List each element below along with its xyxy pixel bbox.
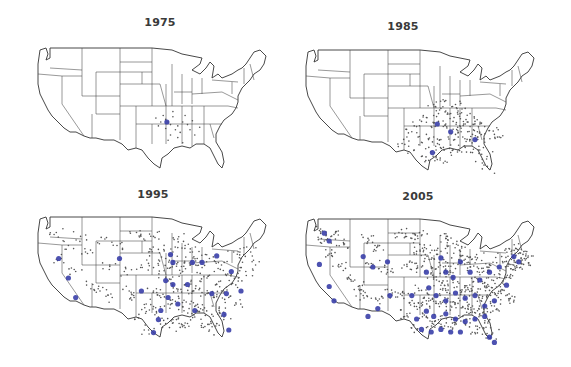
store-dot bbox=[191, 313, 193, 315]
store-dot bbox=[158, 273, 160, 275]
store-dot bbox=[228, 280, 230, 282]
store-dot bbox=[436, 101, 438, 103]
store-dot bbox=[510, 251, 512, 253]
supercenter-dot bbox=[209, 291, 214, 296]
store-dot bbox=[170, 124, 172, 126]
store-dot bbox=[116, 245, 118, 247]
store-dot bbox=[445, 248, 447, 250]
store-dot bbox=[373, 251, 375, 253]
store-dot bbox=[158, 231, 160, 233]
store-dot bbox=[216, 323, 218, 325]
store-dot bbox=[457, 149, 459, 151]
store-dot bbox=[182, 121, 184, 123]
store-dot bbox=[417, 308, 419, 310]
store-dot bbox=[464, 285, 466, 287]
store-dot bbox=[201, 323, 203, 325]
store-dot bbox=[504, 250, 506, 252]
store-dot bbox=[176, 319, 178, 321]
store-dot bbox=[178, 296, 180, 298]
store-dot bbox=[156, 311, 158, 313]
supercenter-dot bbox=[438, 255, 443, 260]
store-dot bbox=[457, 244, 459, 246]
store-dot bbox=[492, 151, 494, 153]
store-dot bbox=[409, 302, 411, 304]
store-dot bbox=[62, 228, 64, 230]
store-dot bbox=[452, 327, 454, 329]
store-dot bbox=[478, 146, 480, 148]
store-dot bbox=[445, 238, 447, 240]
store-dot bbox=[148, 329, 150, 331]
store-dot bbox=[196, 272, 198, 274]
store-dot bbox=[493, 280, 495, 282]
store-dot bbox=[136, 268, 138, 270]
store-dot bbox=[453, 117, 455, 119]
store-dot bbox=[467, 289, 469, 291]
store-dot bbox=[353, 289, 355, 291]
us-map bbox=[32, 44, 275, 174]
store-dot bbox=[496, 278, 498, 280]
store-dot bbox=[440, 315, 442, 317]
supercenter-dot bbox=[73, 295, 78, 300]
store-dot bbox=[367, 238, 369, 240]
store-dot bbox=[206, 290, 208, 292]
store-dot bbox=[192, 291, 194, 293]
store-dot bbox=[406, 264, 408, 266]
store-dot bbox=[163, 245, 165, 247]
store-dot bbox=[469, 326, 471, 328]
panel-title: 2005 bbox=[378, 190, 458, 203]
store-dot bbox=[476, 119, 478, 121]
store-dot bbox=[124, 271, 126, 273]
supercenter-dot bbox=[192, 308, 197, 313]
store-dot bbox=[211, 314, 213, 316]
store-dot bbox=[488, 286, 490, 288]
store-dot bbox=[428, 160, 430, 162]
supercenter-dot bbox=[317, 262, 322, 267]
store-dot bbox=[479, 305, 481, 307]
store-dot bbox=[472, 311, 474, 313]
store-dot bbox=[450, 301, 452, 303]
store-dot bbox=[482, 267, 484, 269]
store-dot bbox=[92, 284, 94, 286]
store-dot bbox=[478, 309, 480, 311]
store-dot bbox=[460, 292, 462, 294]
store-dot bbox=[408, 145, 410, 147]
store-dot bbox=[179, 270, 181, 272]
store-dot bbox=[194, 134, 196, 136]
store-dot bbox=[456, 244, 458, 246]
store-dot bbox=[109, 269, 111, 271]
store-dot bbox=[415, 285, 417, 287]
store-dot bbox=[362, 295, 364, 297]
supercenter-dot bbox=[472, 293, 477, 298]
store-dot bbox=[425, 156, 427, 158]
store-dot bbox=[153, 236, 155, 238]
store-dot bbox=[492, 332, 494, 334]
store-dot bbox=[439, 139, 441, 141]
store-dot bbox=[338, 230, 340, 232]
store-dot bbox=[365, 263, 367, 265]
store-dot bbox=[148, 333, 150, 335]
store-dot bbox=[499, 136, 501, 138]
store-dot bbox=[440, 235, 442, 237]
store-dot bbox=[404, 144, 406, 146]
store-dot bbox=[413, 324, 415, 326]
store-dot bbox=[85, 234, 87, 236]
store-dot bbox=[126, 274, 128, 276]
store-dot bbox=[472, 134, 474, 136]
store-dot bbox=[440, 251, 442, 253]
supercenter-dot bbox=[365, 314, 370, 319]
store-dot bbox=[505, 248, 507, 250]
store-dot bbox=[469, 126, 471, 128]
store-dot bbox=[451, 154, 453, 156]
store-dot bbox=[218, 324, 220, 326]
store-dot bbox=[134, 319, 136, 321]
store-dot bbox=[336, 231, 338, 233]
store-dot bbox=[175, 301, 177, 303]
store-dot bbox=[508, 277, 510, 279]
store-dot bbox=[423, 115, 425, 117]
store-dot bbox=[167, 139, 169, 141]
store-dot bbox=[194, 306, 196, 308]
store-dot bbox=[417, 136, 419, 138]
store-dot bbox=[63, 241, 65, 243]
store-dot bbox=[417, 265, 419, 267]
store-dot bbox=[405, 233, 407, 235]
